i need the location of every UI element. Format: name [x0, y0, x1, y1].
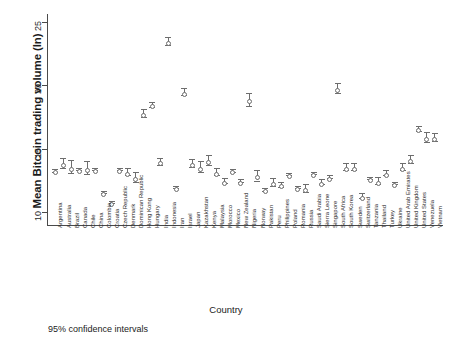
data-point-marker: [368, 178, 373, 183]
x-tick-label: Czech Republic: [122, 186, 128, 228]
x-tick-label: Philippines: [284, 199, 290, 228]
data-point-marker: [150, 104, 155, 109]
error-bar-cap-upper: [149, 102, 155, 103]
data-point-marker: [166, 41, 171, 46]
data-point-marker: [230, 170, 235, 175]
data-point-marker: [271, 182, 276, 187]
x-tick-label: Denmark: [130, 204, 136, 228]
x-tick-label: Switzerland: [365, 197, 371, 228]
error-bar-cap-upper: [375, 177, 381, 178]
x-tick-label: Tanzania: [373, 204, 379, 228]
data-point-marker: [69, 167, 74, 172]
error-bar-cap-upper: [157, 158, 163, 159]
data-point-marker: [53, 170, 58, 175]
x-tick-label: Chile: [90, 214, 96, 228]
error-bar-cap-upper: [400, 163, 406, 164]
x-tick-label: United Arab Emirates: [405, 171, 411, 228]
error-bar-cap-upper: [189, 159, 195, 160]
error-bar-cap-upper: [424, 132, 430, 133]
x-tick-label: Argentina: [57, 202, 63, 228]
error-bar-cap-upper: [270, 178, 276, 179]
x-tick-label: Kazakhstan: [203, 197, 209, 228]
error-bar-cap-upper: [222, 178, 228, 179]
error-bar-cap-upper: [408, 155, 414, 156]
y-tick-label: 25: [33, 21, 43, 31]
error-bar-cap-upper: [416, 126, 422, 127]
x-tick-label: Russia: [308, 210, 314, 228]
data-point-marker: [125, 172, 130, 177]
error-bar-cap-upper: [319, 179, 325, 180]
y-axis-line: [47, 14, 48, 225]
data-point-marker: [190, 163, 195, 168]
data-point-marker: [352, 167, 357, 172]
data-point-marker: [222, 181, 227, 186]
data-point-marker: [93, 169, 98, 174]
x-tick-label: Pakistan: [268, 205, 274, 228]
x-tick-label: New Zealand: [243, 193, 249, 228]
x-tick-label: Peru: [276, 215, 282, 228]
x-tick-label: Poland: [292, 209, 298, 228]
x-tick-label: United Kingdom: [413, 185, 419, 228]
x-tick-label: Hong Kong: [146, 198, 152, 228]
x-tick-label: Iran: [179, 218, 185, 228]
x-tick-label: Malaysia: [219, 204, 225, 228]
data-point-marker: [360, 196, 365, 201]
error-bar-cap-upper: [165, 37, 171, 38]
x-tick-label: Kenya: [211, 211, 217, 228]
y-tick-label: 15: [33, 148, 43, 158]
data-point-marker: [384, 173, 389, 178]
data-point-marker: [295, 187, 300, 192]
x-tick-label: South Africa: [340, 196, 346, 228]
x-tick-label: Saudi Arabia: [316, 194, 322, 228]
error-bar-cap-upper: [351, 163, 357, 164]
y-axis-title: Mean Bitcoin trading volume (ln): [31, 11, 43, 231]
data-point-marker: [319, 182, 324, 187]
x-tick-label: China: [98, 212, 104, 228]
error-bar-cap-upper: [383, 170, 389, 171]
x-tick-label: Turkey: [389, 210, 395, 228]
x-tick-label: Australia: [66, 205, 72, 228]
error-bar-cap-upper: [278, 182, 284, 183]
error-bar-cap-upper: [60, 158, 66, 159]
x-tick-label: Brazil: [74, 213, 80, 228]
error-bar-cap-lower: [84, 174, 90, 175]
data-point-marker: [247, 99, 252, 104]
error-bar-cap-upper: [133, 172, 139, 173]
x-tick-label: India: [163, 215, 169, 228]
x-axis-title: Country: [0, 304, 452, 315]
data-point-marker: [101, 192, 106, 197]
data-point-marker: [287, 174, 292, 179]
error-bar-cap-lower: [68, 173, 74, 174]
data-point-marker: [117, 169, 122, 174]
x-tick-label: United States: [421, 192, 427, 228]
x-tick-label: Sierra Leone: [324, 194, 330, 228]
error-bar-cap-lower: [60, 168, 66, 169]
x-tick-label: Mexico: [235, 209, 241, 228]
data-point-marker: [279, 184, 284, 189]
x-tick-label: Romania: [300, 204, 306, 228]
x-tick-label: South Korea: [348, 195, 354, 228]
error-bar-cap-lower: [424, 142, 430, 143]
chart-caption: 95% confidence intervals: [48, 324, 148, 334]
error-bar-cap-lower: [254, 181, 260, 182]
x-tick-label: Dominican Republic: [138, 175, 144, 228]
error-bar-cap-upper: [206, 155, 212, 156]
data-point-marker: [263, 189, 268, 194]
error-bar-cap-upper: [246, 93, 252, 94]
data-point-marker: [174, 187, 179, 192]
data-point-marker: [344, 167, 349, 172]
error-bar-cap-upper: [141, 109, 147, 110]
x-tick-label: Sweden: [357, 206, 363, 228]
error-bar-cap-upper: [432, 133, 438, 134]
x-tick-label: Hungary: [154, 205, 160, 228]
error-bar-cap-upper: [125, 168, 131, 169]
error-bar-cap-upper: [181, 88, 187, 89]
plot-area: 10152025 ArgentinaAustraliaBrazilCanadaC…: [47, 14, 443, 225]
x-tick-label: Venezuela: [429, 200, 435, 228]
data-point-marker: [327, 177, 332, 182]
x-tick-label: Japan: [195, 212, 201, 228]
x-tick-label: Nigeria: [251, 209, 257, 228]
data-point-marker: [392, 183, 397, 188]
x-tick-label: Indonesia: [171, 202, 177, 228]
x-tick-label: Thailand: [381, 205, 387, 228]
